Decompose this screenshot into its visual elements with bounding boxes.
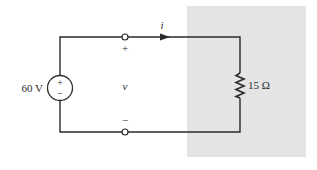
terminal-minus: − <box>122 114 128 126</box>
source-label: 60 V <box>22 82 44 94</box>
current-arrow-icon <box>160 34 170 41</box>
terminal-top <box>122 34 128 40</box>
terminal-bottom <box>122 129 128 135</box>
circuit-diagram: + − 60 V + − v i 15 Ω <box>0 0 317 170</box>
source-minus: − <box>57 88 63 99</box>
wire-source-top <box>60 37 122 76</box>
shaded-load-region <box>187 6 306 157</box>
current-label: i <box>160 19 163 31</box>
source-plus: + <box>57 77 63 88</box>
wire-source-bottom <box>60 100 122 132</box>
terminal-plus: + <box>122 42 128 54</box>
resistor-label: 15 Ω <box>248 79 270 91</box>
voltage-label: v <box>123 80 128 92</box>
